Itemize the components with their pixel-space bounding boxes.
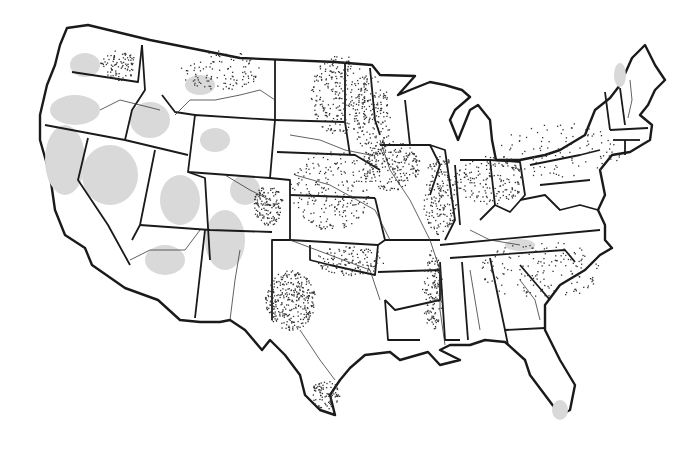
land-outline — [40, 25, 665, 415]
us-dot-map — [0, 0, 698, 451]
